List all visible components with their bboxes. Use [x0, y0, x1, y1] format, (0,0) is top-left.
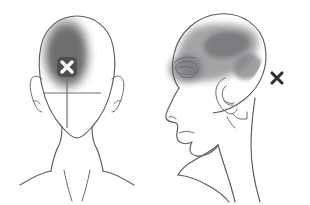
- front-right-shoulder: [103, 171, 134, 185]
- profile-x-icon: [272, 73, 282, 83]
- profile-pain-marker[interactable]: [272, 73, 282, 83]
- front-pain-region: [44, 20, 89, 88]
- profile-nostril: [169, 117, 176, 119]
- front-left-ear: [30, 76, 42, 112]
- front-right-ear: [112, 76, 124, 112]
- profile-trapezius-front: [178, 175, 229, 202]
- profile-neck-back: [251, 98, 260, 202]
- front-pain-marker[interactable]: [57, 57, 77, 77]
- profile-jaw-angle-line: [227, 117, 235, 128]
- profile-jawline: [178, 145, 218, 175]
- headache-location-diagram: [0, 0, 310, 205]
- profile-face-line: [166, 88, 218, 156]
- front-left-shoulder: [20, 171, 51, 185]
- front-head-view: [0, 0, 155, 205]
- front-right-jaw-neck: [92, 127, 97, 149]
- front-left-jaw-neck: [57, 127, 62, 149]
- profile-ear-outer: [216, 78, 237, 114]
- front-neck-muscle-right: [82, 170, 90, 201]
- front-neck-left: [51, 149, 57, 171]
- profile-mouth-line: [179, 132, 194, 134]
- front-neck-muscle-left: [64, 170, 72, 201]
- profile-mastoid-line: [233, 112, 247, 119]
- front-neck-right: [97, 149, 103, 171]
- profile-head-view: [155, 0, 310, 205]
- profile-ear-lobe: [224, 101, 234, 103]
